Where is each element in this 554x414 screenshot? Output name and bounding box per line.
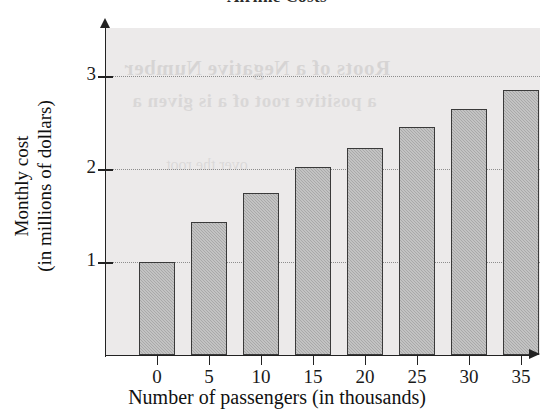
bar-5: [191, 222, 227, 355]
y-axis-title: Monthly cost (in millions of dollars): [10, 56, 56, 316]
bar-10: [243, 193, 279, 355]
y-axis-title-line-2: (in millions of dollars): [33, 56, 56, 316]
arrow-up-icon: [100, 18, 110, 28]
x-tick-10: [261, 356, 262, 365]
plot-area: Roots of a Negative Number a positive ro…: [106, 28, 540, 355]
bleed-through-text-line-2: a positive root of a is given a: [132, 90, 377, 112]
x-tick-label-10: 10: [241, 366, 281, 388]
y-axis-title-line-1: Monthly cost: [10, 56, 33, 316]
bar-30: [451, 109, 487, 355]
x-tick-15: [313, 356, 314, 365]
x-tick-30: [469, 356, 470, 365]
gridline-y-3: [106, 76, 540, 77]
x-axis-line: [105, 355, 532, 356]
y-tick-label-1: 1: [74, 249, 96, 271]
x-tick-5: [209, 356, 210, 365]
x-tick-label-30: 30: [449, 366, 489, 388]
x-tick-label-15: 15: [293, 366, 333, 388]
y-tick-label-3: 3: [74, 63, 96, 85]
y-tick-3: [98, 76, 113, 78]
arrow-right-icon: [529, 349, 540, 359]
bar-25: [399, 127, 435, 355]
bar-15: [295, 167, 331, 355]
x-tick-label-20: 20: [345, 366, 385, 388]
chart-title: Airline Costs: [0, 0, 554, 5]
bar-20: [347, 148, 383, 355]
bar-0: [139, 262, 175, 355]
x-tick-label-0: 0: [137, 366, 177, 388]
x-tick-0: [157, 356, 158, 365]
x-axis-title: Number of passengers (in thousands): [0, 386, 554, 409]
x-tick-25: [417, 356, 418, 365]
y-axis-line: [105, 25, 106, 357]
bleed-through-text-line-1: Roots of a Negative Number: [124, 56, 390, 81]
x-tick-20: [365, 356, 366, 365]
y-tick-2: [98, 169, 113, 171]
x-tick-label-35: 35: [501, 366, 541, 388]
x-tick-label-5: 5: [189, 366, 229, 388]
y-tick-label-2: 2: [74, 156, 96, 178]
y-tick-1: [98, 262, 113, 264]
bleed-through-text-line-3: over the root: [166, 156, 248, 174]
bar-chart-figure: Airline Costs Roots of a Negative Number…: [0, 0, 554, 414]
x-tick-label-25: 25: [397, 366, 437, 388]
bar-35: [503, 90, 539, 355]
x-tick-35: [521, 356, 522, 365]
